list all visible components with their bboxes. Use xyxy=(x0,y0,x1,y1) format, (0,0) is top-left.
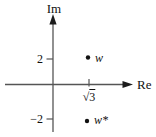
im-axis-label: Im xyxy=(45,2,63,15)
radicand: 3 xyxy=(89,90,95,104)
point-w-conjugate-label: w* xyxy=(94,114,108,126)
re-axis-label: Re xyxy=(137,78,151,91)
axes-canvas xyxy=(0,0,156,137)
im-tick-label-neg2: −2 xyxy=(28,113,43,125)
point-w-label: w xyxy=(95,52,103,64)
im-tick-label-2: 2 xyxy=(30,53,43,65)
re-tick-label-sqrt3: √3 xyxy=(79,91,99,103)
point-w-conjugate-dot xyxy=(85,119,89,123)
complex-plane-figure: Im Re 2 −2 √3 w w* xyxy=(0,0,156,137)
re-axis-arrowhead-icon xyxy=(123,81,134,88)
point-w-dot xyxy=(86,55,90,59)
